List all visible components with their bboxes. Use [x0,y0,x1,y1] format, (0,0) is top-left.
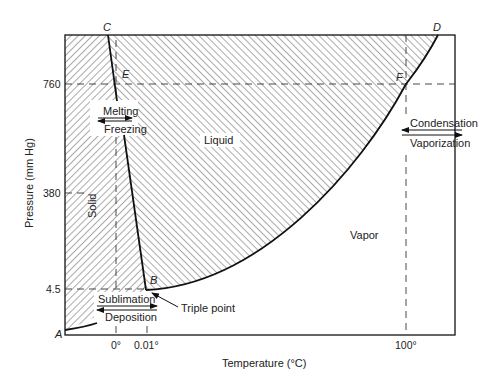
x-tick-100: 100° [395,339,417,351]
x-tick-0-01: 0.01° [134,339,159,351]
x-axis-title: Temperature (°C) [222,357,306,369]
point-a-label: A [54,328,62,340]
triple-point-label: Triple point [181,302,235,314]
freezing-label: Freezing [104,123,147,135]
y-axis-title: Pressure (mm Hg) [23,138,35,228]
phase-diagram: C E D F B A Liquid Vapor Solid Melting F… [0,0,480,387]
melting-label: Melting [103,105,138,117]
sublimation-label: Sublimation [98,293,155,305]
region-liquid-label: Liquid [204,134,233,146]
point-e-label: E [122,68,130,80]
x-tick-0: 0° [111,339,121,351]
y-tick-760: 760 [43,78,61,90]
region-vapor-label: Vapor [350,229,379,241]
point-c-label: C [103,21,111,33]
liquid-region [108,35,438,290]
point-b-label: B [150,274,157,286]
region-solid-label: Solid [86,194,98,218]
y-tick-4-5: 4.5 [46,283,61,295]
y-tick-380: 380 [43,187,61,199]
vaporization-label: Vaporization [410,137,470,149]
deposition-label: Deposition [105,311,157,323]
point-d-label: D [433,21,441,33]
condensation-label: Condensation [410,117,478,129]
